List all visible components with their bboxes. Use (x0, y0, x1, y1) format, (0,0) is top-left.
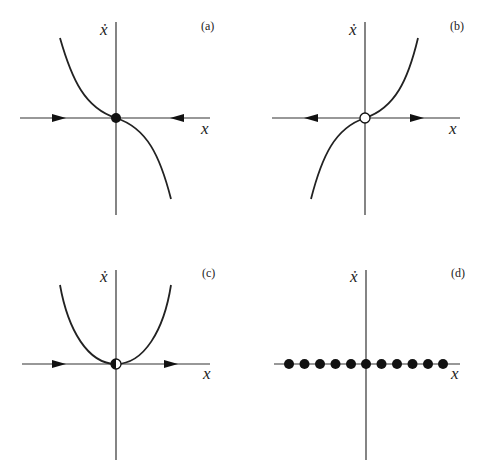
line-of-fixed-points (284, 359, 448, 369)
x-axis-label: x (202, 364, 211, 383)
y-axis-label: ẋ (99, 20, 108, 39)
panel-a: ẋ x (a) (20, 19, 214, 215)
fixed-point-icon (331, 359, 341, 369)
panel-label: (b) (450, 19, 464, 33)
panel-c: ẋ x (c) (22, 266, 215, 460)
fixed-point-icon (392, 359, 402, 369)
flow-arrow-right-icon (52, 360, 66, 368)
fixed-point-icon (315, 359, 325, 369)
flow-arrow-right-icon (410, 114, 424, 122)
fixed-point-icon (300, 359, 310, 369)
y-axis-label: ẋ (348, 20, 357, 39)
flow-arrow-left-icon (170, 114, 184, 122)
y-axis-label: ẋ (349, 267, 358, 286)
phase-portrait-figure: ẋ x (a) ẋ x (b) ẋ x (c) (0, 0, 481, 475)
stable-fixed-point-icon (111, 113, 121, 123)
flow-arrow-left-icon (304, 114, 318, 122)
panel-d: ẋ x (d) (274, 266, 465, 460)
x-axis-label: x (450, 364, 459, 383)
flow-arrow-right-icon (164, 360, 178, 368)
fixed-point-icon (284, 359, 294, 369)
fixed-point-icon (408, 359, 418, 369)
fixed-point-icon (423, 359, 433, 369)
half-stable-fixed-point-icon (111, 359, 121, 369)
x-axis-label: x (200, 119, 209, 138)
flow-arrow-right-icon (52, 114, 66, 122)
unstable-fixed-point-icon (360, 113, 370, 123)
fixed-point-icon (361, 359, 371, 369)
panel-label: (c) (202, 266, 215, 280)
fixed-point-icon (438, 359, 448, 369)
x-axis-label: x (448, 119, 457, 138)
y-axis-label: ẋ (99, 267, 108, 286)
fixed-point-icon (346, 359, 356, 369)
panel-label: (d) (451, 266, 465, 280)
panel-b: ẋ x (b) (272, 19, 464, 215)
fixed-point-icon (377, 359, 387, 369)
panel-label: (a) (201, 19, 214, 33)
